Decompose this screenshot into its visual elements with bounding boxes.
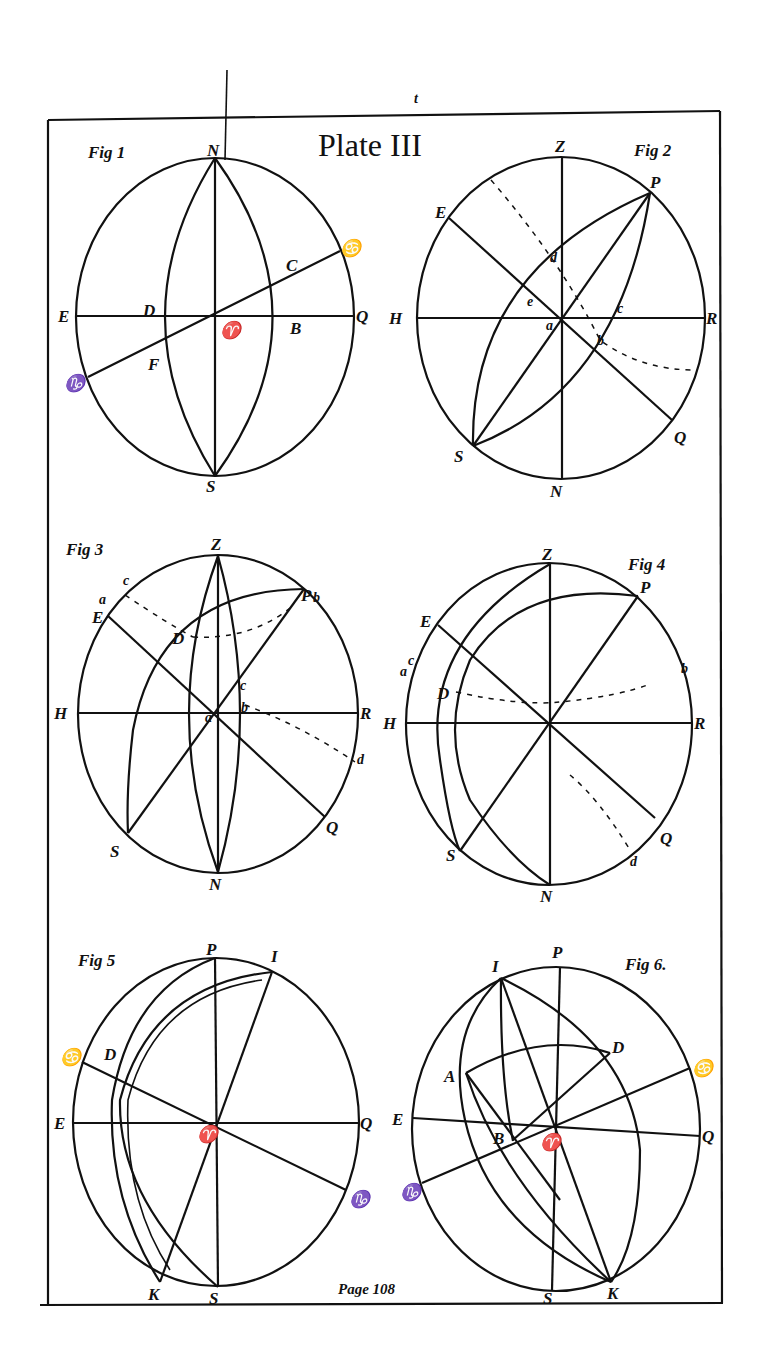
plate-title: Plate III (318, 127, 422, 163)
page-label: Page 108 (338, 1281, 396, 1297)
label-E: E (91, 608, 103, 627)
label-S: S (110, 842, 119, 861)
label-Q: Q (660, 829, 672, 848)
label-N: N (208, 875, 222, 894)
label-C: C (286, 256, 298, 275)
label-e: e (527, 294, 533, 309)
label-S: S (206, 477, 215, 496)
label-P: P (300, 586, 312, 605)
label-S: S (446, 846, 455, 865)
figure-5: Fig 5 P S E Q I K D ♈ ♋ ♑ (53, 940, 374, 1308)
label-H: H (53, 704, 68, 723)
figure-2: Fig 2 Z N H R P S E Q a b c d e (388, 137, 717, 501)
label-b-top: b (313, 590, 320, 605)
label-S: S (543, 1289, 552, 1308)
label-I: I (270, 947, 279, 966)
label-b: b (597, 333, 604, 348)
label-R: R (359, 704, 371, 723)
plate-iii-diagram: t Plate III Fig 1 N S E Q ♈ ♋ ♑ D B C F … (0, 0, 767, 1372)
figure-caption: Fig 1 (87, 143, 125, 162)
label-D: D (142, 301, 155, 320)
label-E: E (53, 1114, 65, 1133)
label-F: F (147, 355, 160, 374)
label-E: E (57, 307, 69, 326)
label-P: P (205, 940, 217, 959)
label-c: c (617, 301, 624, 316)
label-Q: Q (326, 818, 338, 837)
label-S: S (454, 447, 463, 466)
label-N: N (206, 141, 220, 160)
figure-caption: Fig 2 (633, 141, 672, 160)
label-a: a (400, 664, 407, 679)
figure-1: Fig 1 N S E Q ♈ ♋ ♑ D B C F (57, 141, 368, 496)
label-D: D (103, 1045, 116, 1064)
top-mark: t (414, 91, 419, 106)
label-R: R (705, 309, 717, 328)
label-D: D (171, 629, 184, 648)
label-S: S (209, 1289, 218, 1308)
label-P: P (649, 173, 661, 192)
label-Z: Z (210, 535, 221, 554)
label-K: K (606, 1284, 620, 1303)
label-d: d (357, 752, 365, 767)
label-cancer: ♋ (692, 1058, 717, 1078)
label-a: a (546, 318, 553, 333)
label-Q: Q (674, 428, 686, 447)
label-P: P (639, 578, 651, 597)
label-a-center: a (205, 710, 212, 725)
label-I: I (491, 957, 500, 976)
label-b: b (241, 700, 248, 715)
label-a: a (99, 592, 106, 607)
label-d: d (630, 854, 638, 869)
label-N: N (539, 887, 553, 906)
plate-frame (40, 70, 723, 1306)
label-aries: ♈ (220, 320, 245, 340)
label-c: c (408, 653, 415, 668)
label-c: c (240, 678, 247, 693)
figure-caption: Fig 4 (627, 555, 665, 574)
label-E: E (391, 1110, 403, 1129)
label-N: N (549, 482, 563, 501)
label-c-top: c (123, 573, 130, 588)
figure-caption: Fig 3 (65, 540, 104, 559)
label-H: H (382, 714, 397, 733)
label-E: E (419, 612, 431, 631)
label-Z: Z (541, 545, 552, 564)
label-H: H (388, 309, 403, 328)
label-Q: Q (360, 1114, 372, 1133)
label-Q: Q (356, 307, 368, 326)
label-cancer: ♋ (340, 238, 365, 258)
label-Z: Z (554, 137, 565, 156)
label-E: E (434, 203, 446, 222)
label-d: d (550, 250, 558, 265)
figure-3: Fig 3 Z N H R P b S E Q D a c c b a d (53, 535, 371, 894)
figure-4: Fig 4 Z N H R P S E Q D a c b d (382, 545, 705, 906)
label-B: B (492, 1129, 504, 1148)
figure-6: Fig 6. P S E Q I K A D B ♈ ♋ ♑ (391, 943, 717, 1308)
label-P: P (551, 943, 563, 962)
label-D: D (436, 684, 449, 703)
label-B: B (289, 319, 301, 338)
label-K: K (147, 1285, 161, 1304)
label-Q: Q (702, 1127, 714, 1146)
label-b: b (681, 661, 688, 676)
label-A: A (443, 1067, 455, 1086)
label-R: R (693, 714, 705, 733)
figure-caption: Fig 6. (624, 955, 667, 974)
label-capricorn: ♑ (349, 1189, 374, 1209)
figure-caption: Fig 5 (77, 951, 116, 970)
label-D: D (611, 1038, 624, 1057)
